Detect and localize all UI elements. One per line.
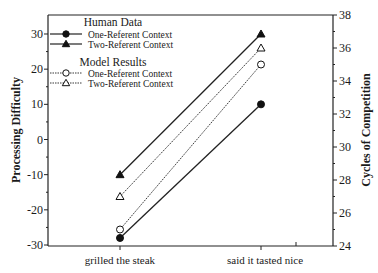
right-tick-label: 36 bbox=[339, 41, 351, 55]
left-tick-label: 0 bbox=[37, 133, 43, 147]
legend-entry-label: Two-Referent Context bbox=[88, 40, 173, 50]
open-circle-marker-icon bbox=[63, 70, 69, 76]
right-tick-label: 24 bbox=[339, 239, 351, 253]
right-tick-label: 28 bbox=[339, 173, 351, 187]
legend-entry-label: One-Referent Context bbox=[88, 69, 173, 79]
legend-entry: Two-Referent Context bbox=[50, 79, 173, 89]
right-tick-label: 30 bbox=[339, 140, 351, 154]
x-category-label: grilled the steak bbox=[85, 254, 156, 266]
left-axis-ticks: 3020100-10-20-30 bbox=[27, 27, 48, 252]
right-tick-label: 38 bbox=[339, 8, 351, 22]
right-tick-label: 32 bbox=[339, 107, 351, 121]
x-category-label: said it tasted nice bbox=[227, 254, 303, 266]
filled-triangle-marker-icon bbox=[257, 30, 265, 37]
filled-circle-marker-icon bbox=[117, 234, 124, 241]
legend-group-title: Human Data bbox=[84, 16, 142, 28]
left-axis-label: Processing Difficulty bbox=[9, 77, 23, 183]
left-tick-label: 10 bbox=[31, 97, 43, 111]
legend-entry: One-Referent Context bbox=[50, 69, 173, 79]
open-circle-marker-icon bbox=[117, 226, 124, 233]
legend: Human DataOne-Referent ContextTwo-Refere… bbox=[50, 16, 173, 89]
legend-entry-label: One-Referent Context bbox=[88, 30, 173, 40]
filled-circle-marker-icon bbox=[63, 31, 69, 37]
right-tick-label: 34 bbox=[339, 74, 351, 88]
plot-frame bbox=[48, 15, 333, 246]
chart: 3020100-10-20-30 3836343230282624 grille… bbox=[0, 0, 378, 273]
legend-entry: Two-Referent Context bbox=[50, 40, 173, 50]
left-tick-label: -20 bbox=[27, 203, 43, 217]
left-tick-label: -10 bbox=[27, 168, 43, 182]
right-axis-label: Cycles of Competition bbox=[359, 73, 373, 187]
legend-entry: One-Referent Context bbox=[50, 30, 173, 40]
open-triangle-marker-icon bbox=[62, 79, 69, 85]
legend-group-title: Model Results bbox=[80, 56, 147, 68]
data-series bbox=[116, 30, 265, 178]
left-tick-label: -30 bbox=[27, 238, 43, 252]
open-triangle-marker-icon bbox=[116, 193, 124, 200]
open-circle-marker-icon bbox=[258, 61, 265, 68]
left-tick-label: 30 bbox=[31, 27, 43, 41]
filled-circle-marker-icon bbox=[258, 101, 265, 108]
open-triangle-marker-icon bbox=[257, 44, 265, 51]
right-axis-ticks: 3836343230282624 bbox=[333, 8, 351, 253]
right-tick-label: 26 bbox=[339, 206, 351, 220]
legend-entry-label: Two-Referent Context bbox=[88, 79, 173, 89]
left-tick-label: 20 bbox=[31, 62, 43, 76]
